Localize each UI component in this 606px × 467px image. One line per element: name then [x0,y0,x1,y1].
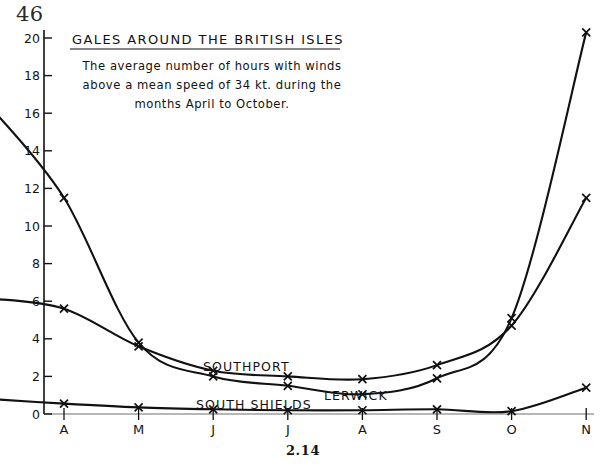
y-tick-label: 4 [32,331,40,346]
x-axis-tick-labels: AMJJASON [60,422,592,437]
chart-title-group: GALES AROUND THE BRITISH ISLES The avera… [70,32,344,111]
chart-subtitle-line-3: months April to October. [134,97,289,111]
y-tick-label: 2 [32,369,40,384]
x-tick-label: M [133,422,144,437]
y-tick-label: 18 [24,68,40,83]
x-tick-label: J [285,422,290,437]
y-tick-label: 8 [32,256,40,271]
chart-plot-area: GALES AROUND THE BRITISH ISLES The avera… [0,0,606,440]
series-southport [0,194,590,383]
y-tick-label: 20 [24,31,40,46]
x-tick-label: A [60,422,69,437]
y-tick-label: 6 [32,294,40,309]
series-label-south-shields: SOUTH SHIELDS [196,397,312,412]
series-label-lerwick: LERWICK [324,388,388,403]
series-label-southport: SOUTHPORT [203,359,290,374]
chart-title: GALES AROUND THE BRITISH ISLES [72,32,344,47]
y-tick-label: 12 [24,181,40,196]
figure-gales-around-british-isles: 46 GALES AROUND THE BRITISH ISLES The av… [0,0,606,467]
series-line [0,198,586,380]
x-tick-label: O [506,422,516,437]
x-tick-label: S [433,422,441,437]
y-axis-tick-labels: 02468101214161820 [24,31,40,422]
y-tick-label: 16 [24,106,40,121]
x-tick-label: A [358,422,367,437]
chart-subtitle-line-1: The average number of hours with winds [81,59,341,73]
y-axis-ticks [44,38,52,414]
x-tick-label: J [210,422,215,437]
chart-subtitle-line-2: above a mean speed of 34 kt. during the [83,78,342,92]
figure-caption: 2.14 [0,443,606,458]
y-tick-label: 0 [32,407,40,422]
y-tick-label: 10 [24,219,40,234]
x-tick-label: N [581,422,591,437]
